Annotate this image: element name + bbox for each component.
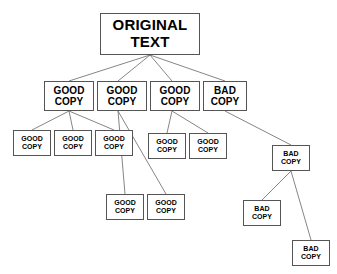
node-n2a-good: GOODCOPY [44, 81, 94, 111]
node-label-line1: GOOD [107, 85, 138, 96]
edge-root-to-n2a [69, 55, 150, 81]
node-label-line1: GOOD [114, 199, 136, 207]
node-label-line1: GOOD [156, 138, 178, 146]
edge-n3f-to-n5a [291, 171, 311, 240]
node-label-line2: COPY [301, 253, 321, 261]
node-n2d-bad: BADCOPY [203, 81, 247, 111]
node-label-line2: COPY [252, 213, 272, 221]
node-n3b-good: GOODCOPY [54, 130, 92, 156]
edge-n2c-to-n3e [172, 111, 208, 133]
node-label-line1: GOOD [54, 85, 85, 96]
node-label-line1: ORIGINAL [113, 17, 188, 34]
node-label-line1: GOOD [160, 85, 191, 96]
edge-root-to-n2c [150, 55, 172, 81]
edge-n2d-to-n3f [225, 111, 291, 145]
node-n2b-good: GOODCOPY [97, 81, 147, 111]
node-n4a-good: GOODCOPY [106, 194, 144, 220]
node-label-line2: COPY [211, 96, 240, 107]
node-label-line1: GOOD [197, 138, 219, 146]
node-label-line1: BAD [214, 85, 236, 96]
node-label-line1: GOOD [103, 135, 125, 143]
node-label-line1: GOOD [62, 135, 84, 143]
node-n3a-good: GOODCOPY [13, 130, 51, 156]
node-n5a-bad: BADCOPY [292, 240, 330, 266]
node-label-line2: TEXT [130, 34, 169, 51]
edge-n2c-to-n3d [167, 111, 172, 133]
node-label-line2: COPY [198, 146, 218, 154]
node-n2c-good: GOODCOPY [150, 81, 200, 111]
node-label-line2: COPY [22, 143, 42, 151]
node-label-line1: BAD [254, 205, 269, 213]
edge-root-to-n2d [150, 55, 225, 81]
edge-n2a-to-n3a [32, 111, 69, 130]
edge-n3f-to-n4c [262, 171, 291, 200]
node-n4b-good: GOODCOPY [147, 194, 185, 220]
node-label-line2: COPY [63, 143, 83, 151]
node-label-line1: BAD [283, 150, 298, 158]
node-label-line2: COPY [115, 207, 135, 215]
node-label-line2: COPY [157, 146, 177, 154]
node-n4c-bad: BADCOPY [243, 200, 281, 226]
node-n3c-good: GOODCOPY [95, 130, 133, 156]
node-n3d-good: GOODCOPY [148, 133, 186, 159]
node-label-line2: COPY [281, 158, 301, 166]
diagram-canvas: ORIGINALTEXTGOODCOPYGOODCOPYGOODCOPYBADC… [0, 0, 337, 274]
node-label-line1: BAD [303, 245, 318, 253]
node-root-original: ORIGINALTEXT [100, 13, 200, 55]
node-label-line2: COPY [156, 207, 176, 215]
node-label-line2: COPY [108, 96, 137, 107]
node-n3e-good: GOODCOPY [189, 133, 227, 159]
edge-n2a-to-n3c [69, 111, 114, 130]
node-label-line1: GOOD [21, 135, 43, 143]
edge-n2a-to-n3b [69, 111, 73, 130]
node-label-line2: COPY [55, 96, 84, 107]
node-label-line2: COPY [104, 143, 124, 151]
node-label-line2: COPY [161, 96, 190, 107]
node-label-line1: GOOD [155, 199, 177, 207]
edge-root-to-n2b [118, 55, 150, 81]
node-n3f-bad: BADCOPY [272, 145, 310, 171]
